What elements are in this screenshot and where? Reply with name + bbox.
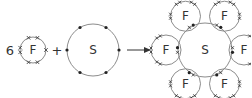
product-fluorine-symbol: F: [221, 77, 228, 91]
sf6-formation-diagram: 6 F + S S FFFFFF: [0, 0, 251, 98]
reaction-arrow: [127, 47, 151, 53]
electron-dot: [65, 48, 68, 51]
sf6-molecule: S FFFFFF: [150, 1, 252, 98]
electron-dot: [78, 71, 81, 74]
electron-dot: [188, 71, 191, 74]
plus-sign: +: [52, 43, 63, 58]
sulfur-symbol: S: [89, 43, 97, 57]
product-fluorine-symbol: F: [221, 9, 228, 23]
electron-dot: [104, 71, 107, 74]
product-fluorine-symbol: F: [163, 43, 170, 57]
electron-dot: [117, 48, 120, 51]
product-sulfur-symbol: S: [201, 43, 209, 57]
product-fluorine-symbol: F: [182, 9, 189, 23]
electron-dot: [231, 51, 234, 54]
electron-dot: [215, 73, 218, 76]
product-fluorine-symbol: F: [241, 43, 248, 57]
electron-dot: [104, 26, 107, 29]
electron-dot: [78, 26, 81, 29]
electron-dot: [176, 46, 179, 49]
electron-dot: [192, 23, 195, 26]
fluorine-symbol: F: [30, 43, 37, 57]
coefficient-label: 6: [6, 43, 14, 58]
product-fluorine-symbol: F: [182, 77, 189, 91]
electron-dot: [219, 26, 222, 29]
